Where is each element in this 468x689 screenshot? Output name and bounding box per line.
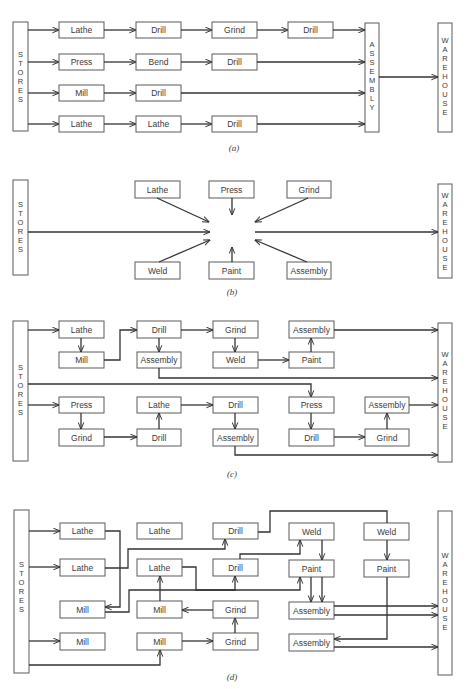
node-grind: Grind	[225, 605, 246, 615]
node-drill: Drill	[152, 433, 167, 443]
node-mill: Mill	[75, 88, 88, 98]
node-paint: Paint	[222, 266, 242, 276]
node-lathe: Lathe	[72, 526, 94, 536]
node-weld: Weld	[148, 266, 167, 276]
node-grind: Grind	[225, 637, 246, 647]
node-grind: Grind	[225, 325, 246, 335]
panel-b-process-layout: STORES WAREHOUSE Lathe Press Grind Weld …	[13, 180, 452, 297]
stores-label: STORES	[18, 200, 24, 254]
node-mill: Mill	[75, 355, 88, 365]
caption-b: (b)	[227, 287, 238, 297]
node-lathe: Lathe	[71, 325, 93, 335]
node-press: Press	[71, 57, 93, 67]
node-mill: Mill	[153, 637, 166, 647]
node-drill: Drill	[304, 433, 319, 443]
node-press: Press	[301, 400, 323, 410]
node-paint: Paint	[302, 564, 322, 574]
panel-a-product-layout: STORES ASSEMBLY WAREHOUSE Lathe Drill Gr…	[13, 22, 452, 153]
stores-label: STORES	[19, 560, 25, 614]
node-assembly: Assembly	[217, 433, 255, 443]
stores-label: STORES	[18, 50, 24, 104]
node-lathe: Lathe	[148, 119, 170, 129]
node-weld: Weld	[302, 527, 321, 537]
node-drill: Drill	[228, 526, 243, 536]
node-lathe: Lathe	[149, 563, 171, 573]
node-paint: Paint	[302, 355, 322, 365]
node-grind: Grind	[299, 185, 320, 195]
stores-label: STORES	[18, 363, 24, 417]
node-assembly: Assembly	[369, 400, 407, 410]
node-drill: Drill	[227, 57, 242, 67]
node-drill: Drill	[303, 25, 318, 35]
node-grind: Grind	[71, 433, 92, 443]
caption-a: (a)	[229, 143, 240, 153]
node-weld: Weld	[377, 527, 396, 537]
node-drill: Drill	[228, 400, 243, 410]
node-lathe: Lathe	[71, 119, 93, 129]
node-weld: Weld	[226, 355, 245, 365]
node-drill: Drill	[227, 119, 242, 129]
node-press: Press	[221, 185, 243, 195]
node-assembly: Assembly	[291, 266, 329, 276]
node-press: Press	[71, 400, 93, 410]
node-grind: Grind	[224, 25, 245, 35]
process-layout-figure: STORES ASSEMBLY WAREHOUSE Lathe Drill Gr…	[0, 0, 468, 689]
node-lathe: Lathe	[72, 563, 94, 573]
node-lathe: Lathe	[148, 400, 170, 410]
node-drill: Drill	[151, 25, 166, 35]
node-grind: Grind	[377, 433, 398, 443]
node-assembly: Assembly	[141, 355, 179, 365]
node-mill: Mill	[76, 605, 89, 615]
node-assembly: Assembly	[293, 325, 331, 335]
node-mill: Mill	[76, 637, 89, 647]
node-lathe: Lathe	[149, 526, 171, 536]
node-lathe: Lathe	[71, 25, 93, 35]
node-assembly: Assembly	[293, 606, 331, 616]
node-drill: Drill	[151, 88, 166, 98]
panel-c-cellular-layout: STORES WAREHOUSE Lathe Mill Drill Assemb…	[13, 321, 452, 479]
node-lathe: Lathe	[147, 185, 169, 195]
node-bend: Bend	[149, 57, 169, 67]
node-assembly: Assembly	[293, 638, 331, 648]
node-drill: Drill	[152, 325, 167, 335]
node-mill: Mill	[153, 605, 166, 615]
caption-c: (c)	[227, 469, 237, 479]
node-paint: Paint	[377, 564, 397, 574]
panel-d-functional-layout: STORES WAREHOUSE Lathe Lathe Drill Weld …	[14, 510, 452, 682]
node-drill: Drill	[228, 563, 243, 573]
caption-d: (d)	[227, 672, 238, 682]
